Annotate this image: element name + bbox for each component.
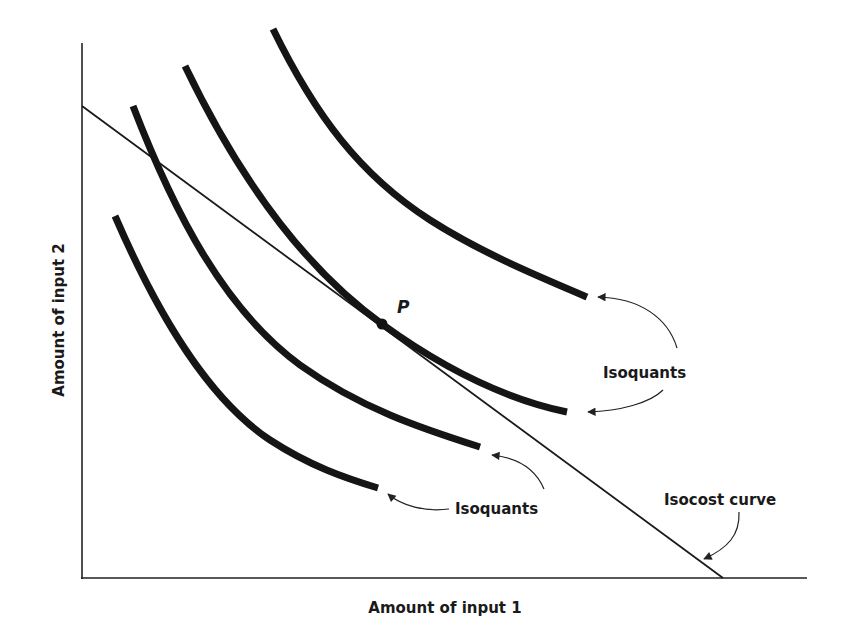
isoquant-4 — [273, 29, 587, 297]
arrow-to-isoquant-3-icon — [588, 390, 663, 412]
isoquant-3 — [185, 66, 567, 412]
isoquants-upper-label: Isoquants — [603, 364, 686, 382]
tangency-point-p — [377, 319, 388, 330]
point-p-label: P — [397, 297, 410, 317]
arrow-to-isoquant-2-icon — [492, 455, 544, 489]
isoquants-lower-label: Isoquants — [455, 500, 538, 518]
isocost-label: Isocost curve — [664, 491, 776, 509]
isoquant-2 — [133, 106, 480, 447]
y-axis-label: Amount of input 2 — [50, 243, 68, 396]
isocost-annotation: Isocost curve — [664, 491, 776, 559]
isoquants — [115, 29, 587, 488]
isoquants-upper-annotation: Isoquants — [588, 297, 686, 412]
x-axis-label: Amount of input 1 — [368, 599, 521, 617]
arrow-to-isoquant-1-icon — [388, 494, 449, 510]
arrow-to-isoquant-4-icon — [598, 297, 677, 348]
isoquant-isocost-diagram: P Isoquants Isoquants Isocost curve Amou… — [0, 0, 845, 633]
arrow-to-isocost-icon — [704, 512, 739, 559]
isoquant-1 — [115, 216, 378, 488]
isoquants-lower-annotation: Isoquants — [388, 455, 544, 518]
